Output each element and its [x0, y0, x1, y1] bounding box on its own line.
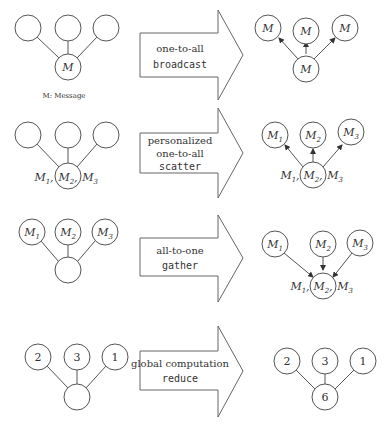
- gather-after-tree: M1 M2 M3 M1, M2, M3: [262, 230, 373, 299]
- reduce-operation-arrow: global computation reduce: [131, 326, 243, 417]
- operation-keyword: scatter: [159, 161, 201, 172]
- broadcast-operation-arrow: one-to-all broadcast: [140, 10, 243, 100]
- operation-description: one-to-all: [156, 148, 204, 159]
- tree-node-root: [64, 384, 90, 410]
- node-label: M: [299, 25, 312, 38]
- scatter-before-tree: M1, M2, M3: [15, 122, 119, 189]
- node-value: 2: [35, 351, 42, 364]
- node-label: M1,: [289, 280, 309, 295]
- node-label: M1,: [33, 171, 53, 186]
- operation-description: all-to-one: [156, 245, 204, 256]
- scatter-after-tree: M1 M2 M3 M1, M2, M3: [262, 119, 364, 188]
- node-value: 2: [284, 355, 291, 368]
- tree-node: [15, 15, 41, 41]
- row-gather: M1 M2 M3 all-to-one gather M1 M2 M3 M1, …: [19, 215, 373, 302]
- reduce-after-tree: 2 3 1 6: [274, 348, 376, 410]
- row-reduce: 2 3 1 global computation reduce 2 3 1 6: [25, 326, 376, 417]
- broadcast-before-tree: M M: Message: [15, 15, 119, 100]
- reduce-before-tree: 2 3 1: [25, 344, 128, 410]
- node-label: M: [338, 22, 351, 35]
- node-label: M: [61, 61, 74, 74]
- operation-keyword: broadcast: [153, 59, 207, 70]
- row-broadcast: M M: Message one-to-all broadcast M M M …: [15, 10, 358, 100]
- node-label: M2,: [312, 280, 332, 295]
- operation-description: global computation: [131, 358, 230, 369]
- scatter-operation-arrow: personalized one-to-all scatter: [140, 108, 243, 198]
- tree-node: [93, 122, 119, 148]
- tree-node: [93, 15, 119, 41]
- node-label: M3: [81, 171, 98, 186]
- tree-node-root: [55, 257, 81, 283]
- node-label: M3: [326, 169, 343, 184]
- broadcast-after-tree: M M M M: [255, 15, 358, 82]
- node-label: M2,: [302, 169, 322, 184]
- node-value: 3: [74, 351, 81, 364]
- operation-keyword: gather: [162, 260, 198, 271]
- node-label: M: [261, 22, 274, 35]
- node-value: 1: [360, 355, 367, 368]
- gather-operation-arrow: all-to-one gather: [140, 215, 243, 302]
- node-label: M: [299, 63, 312, 76]
- node-label: M1,: [279, 169, 299, 184]
- node-value: 1: [112, 351, 119, 364]
- collective-operations-diagram: M M: Message one-to-all broadcast M M M …: [0, 0, 390, 430]
- operation-keyword: reduce: [162, 373, 198, 384]
- node-label: M2,: [57, 171, 77, 186]
- operation-description: one-to-all: [156, 43, 204, 54]
- node-value: 3: [322, 355, 329, 368]
- tree-node: [55, 15, 81, 41]
- operation-description: personalized: [148, 135, 213, 146]
- node-label: M3: [336, 280, 353, 295]
- node-value: 6: [322, 391, 329, 404]
- legend-caption: M: Message: [42, 92, 85, 100]
- tree-node: [15, 122, 41, 148]
- row-scatter: M1, M2, M3 personalized one-to-all scatt…: [15, 108, 364, 198]
- tree-node: [55, 122, 81, 148]
- gather-before-tree: M1 M2 M3: [19, 219, 118, 283]
